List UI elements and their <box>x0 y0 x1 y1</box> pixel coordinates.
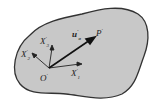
origin-label: O' <box>40 73 48 83</box>
axis-label-x2: X'2 <box>21 49 30 61</box>
axis-label-x3: X'3 <box>40 36 49 48</box>
point-label: P' <box>96 28 103 38</box>
vector-label: u'o <box>72 29 81 41</box>
axis-label-x1: X'1 <box>71 68 80 80</box>
body-region <box>15 8 148 98</box>
